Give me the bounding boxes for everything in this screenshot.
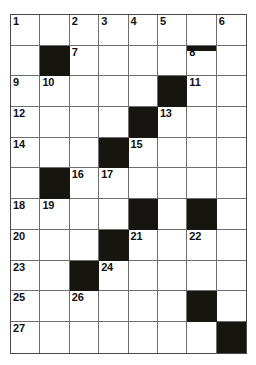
crossword-clue-number: 7 (72, 46, 78, 59)
crossword-clue-number: 22 (189, 230, 201, 243)
crossword-block-cell (129, 199, 158, 230)
crossword-open-cell[interactable]: 1 (11, 15, 40, 46)
crossword-open-cell[interactable] (217, 291, 246, 322)
crossword-open-cell[interactable]: 16 (70, 168, 99, 199)
crossword-open-cell[interactable] (70, 76, 99, 107)
crossword-open-cell[interactable]: 23 (11, 261, 40, 292)
crossword-open-cell[interactable]: 26 (70, 291, 99, 322)
crossword-open-cell[interactable] (40, 261, 69, 292)
crossword-block-cell (99, 230, 128, 261)
crossword-open-cell[interactable] (40, 230, 69, 261)
crossword-open-cell[interactable] (70, 107, 99, 138)
crossword-clue-number: 8 (189, 46, 195, 59)
crossword-open-cell[interactable] (217, 138, 246, 169)
crossword-clue-number: 18 (13, 199, 25, 212)
crossword-open-cell[interactable]: 3 (99, 15, 128, 46)
crossword-clue-number: 10 (42, 76, 54, 89)
crossword-grid[interactable]: 1234567891011121314151617181920212223242… (10, 14, 247, 354)
crossword-open-cell[interactable] (129, 291, 158, 322)
crossword-clue-number: 23 (13, 261, 25, 274)
crossword-open-cell[interactable] (40, 291, 69, 322)
crossword-open-cell[interactable] (40, 107, 69, 138)
crossword-clue-number: 26 (72, 291, 84, 304)
crossword-open-cell[interactable]: 18 (11, 199, 40, 230)
crossword-open-cell[interactable] (129, 76, 158, 107)
crossword-puzzle: 1234567891011121314151617181920212223242… (0, 0, 256, 365)
crossword-open-cell[interactable] (129, 168, 158, 199)
crossword-open-cell[interactable]: 22 (187, 230, 216, 261)
crossword-open-cell[interactable] (187, 138, 216, 169)
crossword-open-cell[interactable] (99, 107, 128, 138)
crossword-open-cell[interactable]: 13 (158, 107, 187, 138)
crossword-open-cell[interactable] (70, 138, 99, 169)
crossword-open-cell[interactable] (217, 107, 246, 138)
crossword-open-cell[interactable] (70, 230, 99, 261)
crossword-open-cell[interactable]: 7 (70, 46, 99, 77)
crossword-open-cell[interactable] (217, 261, 246, 292)
crossword-open-cell[interactable] (187, 168, 216, 199)
crossword-open-cell[interactable]: 5 (158, 15, 187, 46)
crossword-open-cell[interactable] (99, 76, 128, 107)
crossword-open-cell[interactable] (11, 46, 40, 77)
crossword-open-cell[interactable] (11, 168, 40, 199)
crossword-open-cell[interactable] (158, 46, 187, 77)
crossword-open-cell[interactable] (99, 199, 128, 230)
crossword-open-cell[interactable]: 14 (11, 138, 40, 169)
crossword-open-cell[interactable] (158, 138, 187, 169)
crossword-open-cell[interactable]: 4 (129, 15, 158, 46)
crossword-open-cell[interactable] (158, 230, 187, 261)
crossword-clue-number: 16 (72, 168, 84, 181)
crossword-open-cell[interactable] (187, 322, 216, 353)
crossword-clue-number: 21 (131, 230, 143, 243)
crossword-open-cell[interactable]: 21 (129, 230, 158, 261)
crossword-open-cell[interactable]: 12 (11, 107, 40, 138)
crossword-clue-number: 4 (131, 15, 137, 28)
crossword-open-cell[interactable]: 6 (217, 15, 246, 46)
crossword-open-cell[interactable]: 25 (11, 291, 40, 322)
crossword-open-cell[interactable] (129, 261, 158, 292)
crossword-open-cell[interactable] (217, 46, 246, 77)
crossword-open-cell[interactable] (70, 199, 99, 230)
crossword-open-cell[interactable] (187, 15, 216, 46)
crossword-open-cell[interactable] (217, 230, 246, 261)
crossword-open-cell[interactable]: 19 (40, 199, 69, 230)
crossword-open-cell[interactable]: 17 (99, 168, 128, 199)
crossword-open-cell[interactable] (217, 199, 246, 230)
crossword-clue-number: 5 (160, 15, 166, 28)
crossword-open-cell[interactable] (158, 199, 187, 230)
crossword-open-cell[interactable]: 2 (70, 15, 99, 46)
crossword-open-cell[interactable]: 15 (129, 138, 158, 169)
crossword-open-cell[interactable] (187, 261, 216, 292)
crossword-open-cell[interactable] (70, 322, 99, 353)
crossword-open-cell[interactable]: 20 (11, 230, 40, 261)
crossword-open-cell[interactable] (129, 46, 158, 77)
crossword-block-cell (217, 322, 246, 353)
crossword-open-cell[interactable] (99, 291, 128, 322)
crossword-open-cell[interactable]: 9 (11, 76, 40, 107)
crossword-clue-number: 25 (13, 291, 25, 304)
crossword-open-cell[interactable] (217, 76, 246, 107)
crossword-open-cell[interactable] (187, 107, 216, 138)
crossword-open-cell[interactable] (99, 322, 128, 353)
crossword-open-cell[interactable]: 11 (187, 76, 216, 107)
crossword-open-cell[interactable] (158, 322, 187, 353)
crossword-clue-number: 19 (42, 199, 54, 212)
crossword-clue-number: 1 (13, 15, 19, 28)
crossword-open-cell[interactable] (158, 168, 187, 199)
crossword-open-cell[interactable] (40, 322, 69, 353)
crossword-open-cell[interactable] (158, 261, 187, 292)
crossword-clue-number: 9 (13, 76, 19, 89)
crossword-open-cell[interactable] (99, 46, 128, 77)
crossword-open-cell[interactable] (217, 168, 246, 199)
crossword-open-cell[interactable]: 27 (11, 322, 40, 353)
crossword-open-cell[interactable]: 8 (187, 46, 216, 77)
crossword-open-cell[interactable]: 10 (40, 76, 69, 107)
crossword-block-cell (99, 138, 128, 169)
crossword-open-cell[interactable] (40, 15, 69, 46)
crossword-open-cell[interactable] (40, 138, 69, 169)
crossword-open-cell[interactable] (129, 322, 158, 353)
crossword-open-cell[interactable] (158, 291, 187, 322)
crossword-open-cell[interactable]: 24 (99, 261, 128, 292)
crossword-clue-number: 2 (72, 15, 78, 28)
crossword-clue-number: 17 (101, 168, 113, 181)
